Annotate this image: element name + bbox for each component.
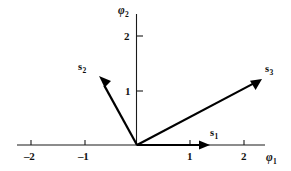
- vector-s3-shaft: [137, 83, 254, 145]
- y-axis-title-text: φ: [118, 4, 125, 16]
- vector-s3: [137, 79, 262, 145]
- y-axis-title-sub: 2: [125, 10, 129, 19]
- vector-s2: [99, 76, 137, 145]
- x-axis-title-text: φ: [266, 151, 273, 163]
- x-axis-title: φ1: [266, 152, 276, 164]
- vector-label-s3-sub: 3: [269, 68, 273, 77]
- vector-label-s3: s3: [265, 64, 273, 75]
- vector-s1: [137, 141, 210, 150]
- vector-s1-arrowhead: [199, 141, 210, 150]
- vector-s2-arrowhead: [99, 76, 111, 88]
- x-tick-label-2: 2: [241, 151, 246, 162]
- vector-label-s2: s2: [78, 62, 86, 73]
- vector-label-s1: s1: [210, 128, 218, 139]
- y-tick-label-2: 2: [124, 31, 129, 42]
- vector-diagram-figure: –2 –1 1 2 1 2 φ1 φ2 s1 s2 s3: [0, 0, 291, 171]
- vector-label-s2-sub: 2: [82, 66, 86, 75]
- vector-s2-shaft: [104, 85, 137, 145]
- y-tick-label-1: 1: [125, 86, 130, 97]
- vector-label-s1-sub: 1: [214, 132, 218, 141]
- y-axis-title: φ2: [118, 5, 128, 17]
- x-tick-label-minus1: –1: [78, 151, 89, 162]
- x-axis-title-sub: 1: [273, 157, 277, 166]
- x-tick-label-1: 1: [187, 151, 192, 162]
- x-tick-label-minus2: –2: [24, 151, 35, 162]
- plot-canvas: [0, 0, 291, 171]
